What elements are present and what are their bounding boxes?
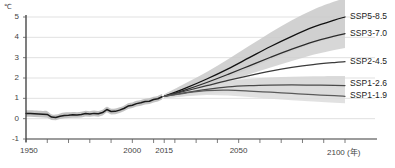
y-axis-unit-label: ℃ xyxy=(4,3,12,11)
series-label-SSP3-7.0: SSP3-7.0 xyxy=(350,28,387,38)
y-tick-label-3: 3 xyxy=(5,53,19,62)
y-tick-label-5: 5 xyxy=(5,12,19,21)
y-tick-label-0: 0 xyxy=(5,114,19,123)
temperature-projection-chart: ℃ 543210-1 19502000201520502100 (年) SSP5… xyxy=(0,0,395,168)
x-tick-label-2100: 2100 (年) xyxy=(327,146,360,157)
series-label-SSP2-4.5: SSP2-4.5 xyxy=(350,56,387,66)
band-historical xyxy=(26,94,162,120)
x-tick-label-2050: 2050 xyxy=(230,146,248,155)
x-tick-label-2015: 2015 xyxy=(155,146,173,155)
series-label-SSP1-2.6: SSP1-2.6 xyxy=(350,78,387,88)
x-tick-label-1950: 1950 xyxy=(20,146,38,155)
chart-plot-area xyxy=(0,0,395,168)
y-tick-label-1: 1 xyxy=(5,93,19,102)
y-tick-label--1: -1 xyxy=(5,134,19,143)
series-label-SSP5-8.5: SSP5-8.5 xyxy=(350,11,387,21)
x-tick-label-2000: 2000 xyxy=(123,146,141,155)
y-tick-label-2: 2 xyxy=(5,73,19,82)
series-label-SSP1-1.9: SSP1-1.9 xyxy=(350,90,387,100)
y-tick-label-4: 4 xyxy=(5,32,19,41)
uncertainty-bands-group xyxy=(26,0,345,120)
